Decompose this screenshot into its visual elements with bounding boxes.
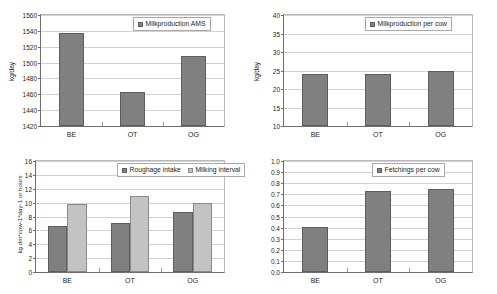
y-tick-mark [38, 15, 41, 16]
x-tick-label: BE [284, 277, 347, 285]
x-tick-separator [99, 268, 100, 272]
x-tick-label: OT [102, 131, 163, 139]
bar-ot-1[interactable] [365, 191, 391, 272]
chart-roughage-milking-interval: kg dm*cow-1*day-1 or hours 0246810121416… [0, 148, 248, 294]
y-tick-mark [281, 272, 284, 273]
legend-milkproduction-ams[interactable]: Milkproduction AMS [133, 17, 211, 31]
y-tick-label: 16 [0, 158, 32, 165]
y-tick-label: 14 [0, 171, 32, 178]
chart-panel-milkproduction-ams: kg/day 14201440146014801500152015401560B… [0, 0, 248, 148]
y-tick-mark [281, 52, 284, 53]
legend-entry: Milkproduction per cow [370, 20, 447, 28]
legend-swatch-icon [122, 168, 127, 173]
legend-label: Roughage intake [130, 166, 181, 174]
y-tick-label: 0.5 [246, 213, 280, 220]
y-tick-mark [38, 126, 41, 127]
legend-entry: Milkproduction AMS [138, 20, 206, 28]
y-tick-label: 15 [246, 104, 280, 111]
chart-milkproduction-per-cow: kg/day 10152025303540BEOTOG Milkproducti… [248, 0, 497, 148]
y-tick-mark [281, 89, 284, 90]
y-tick-mark [33, 258, 36, 259]
bar-og-1[interactable] [428, 71, 454, 126]
y-tick-label: 1520 [3, 43, 37, 50]
y-tick-mark [33, 203, 36, 204]
chart-fetchings-per-cow: 0.00.10.20.30.40.50.60.70.80.91.0BEOTOG … [248, 148, 497, 294]
x-tick-separator [161, 268, 162, 272]
bar-be-1[interactable] [302, 227, 328, 273]
grid-line [41, 15, 224, 16]
y-tick-mark [33, 175, 36, 176]
x-tick-label: BE [36, 277, 99, 285]
grid-line [284, 52, 472, 53]
y-tick-label: 4 [0, 241, 32, 248]
legend-swatch-icon [188, 168, 193, 173]
x-tick-label: OG [163, 131, 224, 139]
y-tick-mark [281, 261, 284, 262]
y-tick-label: 0.0 [246, 269, 280, 276]
y-tick-mark [33, 230, 36, 231]
grid-line [284, 15, 472, 16]
y-tick-label: 0 [0, 269, 32, 276]
y-tick-label: 10 [0, 199, 32, 206]
x-tick-label: BE [284, 131, 347, 139]
y-tick-mark [38, 94, 41, 95]
y-tick-label: 25 [246, 67, 280, 74]
y-tick-label: 2 [0, 255, 32, 262]
x-tick-separator [347, 122, 348, 126]
bar-be-1[interactable] [48, 226, 67, 272]
x-tick-separator [163, 122, 164, 126]
y-tick-mark [38, 78, 41, 79]
x-tick-separator [409, 268, 410, 272]
bar-og-1[interactable] [428, 189, 454, 272]
bar-be-1[interactable] [302, 74, 328, 126]
y-tick-label: 6 [0, 227, 32, 234]
y-tick-label: 0.1 [246, 257, 280, 264]
grid-line [36, 161, 224, 162]
bar-ot-2[interactable] [130, 196, 149, 272]
y-tick-mark [281, 205, 284, 206]
y-tick-label: 1460 [3, 91, 37, 98]
bar-ot-1[interactable] [120, 92, 146, 126]
bar-ot-1[interactable] [111, 223, 130, 272]
x-tick-label: OT [347, 277, 410, 285]
legend-milkproduction-per-cow[interactable]: Milkproduction per cow [365, 17, 452, 31]
legend-label: Fetchings per cow [385, 166, 440, 174]
legend-fetchings-per-cow[interactable]: Fetchings per cow [372, 163, 445, 177]
y-tick-mark [281, 217, 284, 218]
chart-panel-fetchings-per-cow: 0.00.10.20.30.40.50.60.70.80.91.0BEOTOG … [248, 148, 497, 294]
x-tick-separator [347, 268, 348, 272]
y-tick-label: 1500 [3, 59, 37, 66]
y-tick-mark [38, 110, 41, 111]
y-tick-label: 0.4 [246, 224, 280, 231]
bar-og-1[interactable] [173, 212, 192, 272]
grid-line [284, 183, 472, 184]
bar-og-1[interactable] [181, 56, 207, 126]
x-tick-label: BE [41, 131, 102, 139]
y-tick-mark [33, 272, 36, 273]
y-tick-label: 0.9 [246, 169, 280, 176]
bar-be-1[interactable] [59, 33, 85, 126]
y-tick-label: 1480 [3, 75, 37, 82]
legend-roughage-milking-interval[interactable]: Roughage intake Milking interval [117, 163, 245, 177]
bar-ot-1[interactable] [365, 74, 391, 126]
legend-label: Milking interval [195, 166, 240, 174]
grid-line [36, 189, 224, 190]
y-tick-mark [33, 244, 36, 245]
bar-og-2[interactable] [193, 203, 212, 272]
x-tick-label: OG [409, 131, 472, 139]
chart-panel-roughage-milking-interval: kg dm*cow-1*day-1 or hours 0246810121416… [0, 148, 248, 294]
y-tick-mark [38, 47, 41, 48]
y-tick-mark [281, 250, 284, 251]
x-tick-label: OG [161, 277, 224, 285]
y-tick-label: 10 [246, 123, 280, 130]
y-tick-mark [33, 161, 36, 162]
bar-be-2[interactable] [67, 204, 86, 272]
legend-entry: Fetchings per cow [377, 166, 440, 174]
chart-panel-milkproduction-per-cow: kg/day 10152025303540BEOTOG Milkproducti… [248, 0, 497, 148]
y-tick-label: 35 [246, 30, 280, 37]
y-tick-mark [281, 71, 284, 72]
y-tick-mark [281, 172, 284, 173]
y-tick-mark [281, 34, 284, 35]
y-tick-mark [33, 217, 36, 218]
y-tick-label: 12 [0, 185, 32, 192]
